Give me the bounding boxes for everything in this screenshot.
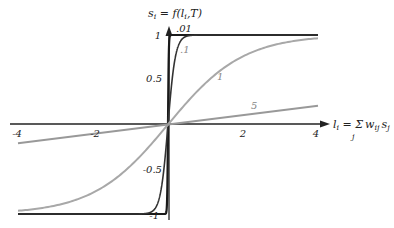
y-axis-title: si = f(li,T) bbox=[148, 7, 202, 21]
sigmoid-chart: -4-22410.5-0.5-1 .01.115 si = f(li,T) li… bbox=[0, 0, 394, 228]
y-tick-1: 1 bbox=[155, 30, 161, 41]
y-tick-0.5: 0.5 bbox=[146, 73, 162, 84]
y-tick--1: -1 bbox=[149, 210, 159, 221]
x-tick--2: -2 bbox=[90, 128, 100, 139]
x-tick-4: 4 bbox=[312, 128, 319, 139]
x-tick-2: 2 bbox=[239, 128, 246, 139]
y-tick--0.5: -0.5 bbox=[143, 164, 162, 175]
curve-label-1: .1 bbox=[180, 44, 190, 55]
x-axis-title-sum-index: j bbox=[350, 132, 355, 141]
x-axis-arrow-icon bbox=[320, 121, 330, 128]
curve-label-3: 5 bbox=[251, 100, 257, 111]
curve-label-0: .01 bbox=[176, 23, 192, 34]
x-axis-title: li = Σwijsj bbox=[333, 118, 390, 132]
x-tick--4: -4 bbox=[12, 128, 22, 139]
curve-label-2: 1 bbox=[217, 71, 223, 82]
